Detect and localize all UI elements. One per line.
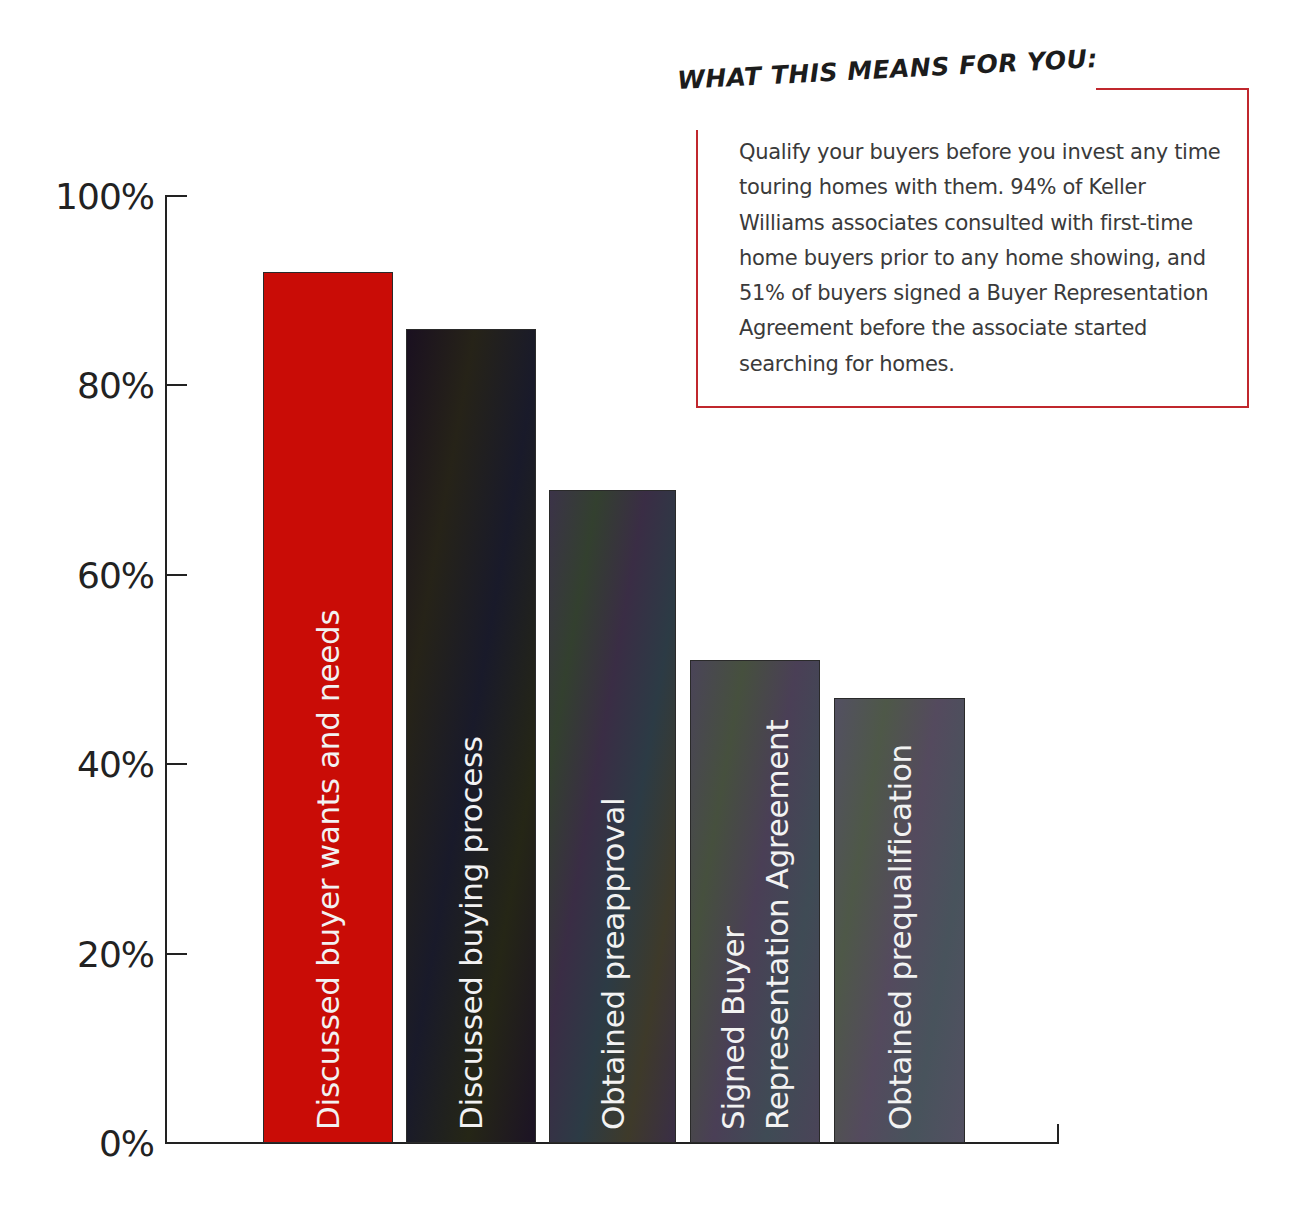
bar-label: Discussed buyer wants and needs (306, 610, 350, 1130)
y-tick-label: 20% (77, 933, 154, 974)
y-tick-label: 60% (77, 554, 154, 595)
x-axis-end-tick (1057, 1124, 1059, 1144)
bar-label: Discussed buying process (449, 736, 493, 1130)
callout-border-right (1247, 88, 1249, 408)
y-tick-label: 40% (77, 744, 154, 785)
y-tick-mark (165, 195, 187, 197)
callout-body: Qualify your buyers before you invest an… (739, 135, 1229, 382)
y-tick-mark (165, 574, 187, 576)
callout-box: Qualify your buyers before you invest an… (696, 88, 1249, 408)
bar: Obtained prequalification (834, 698, 965, 1143)
y-tick-mark (165, 763, 187, 765)
y-tick-mark (165, 953, 187, 955)
y-tick-label: 0% (99, 1123, 154, 1164)
bar-label: Obtained preapproval (591, 798, 635, 1130)
bar: Obtained preapproval (549, 490, 676, 1143)
callout-border-bottom (696, 406, 1249, 408)
callout-border-top (1096, 88, 1249, 90)
callout-border-left (696, 130, 698, 408)
bar: Discussed buying process (406, 329, 536, 1143)
bar: Discussed buyer wants and needs (263, 272, 393, 1143)
y-axis (165, 196, 167, 1144)
bar: Signed Buyer Representation Agreement (690, 660, 820, 1143)
y-tick-mark (165, 384, 187, 386)
y-tick-label: 100% (55, 176, 154, 217)
y-tick-label: 80% (77, 365, 154, 406)
bar-label: Obtained prequalification (878, 744, 922, 1130)
bar-label: Signed Buyer Representation Agreement (711, 720, 799, 1130)
